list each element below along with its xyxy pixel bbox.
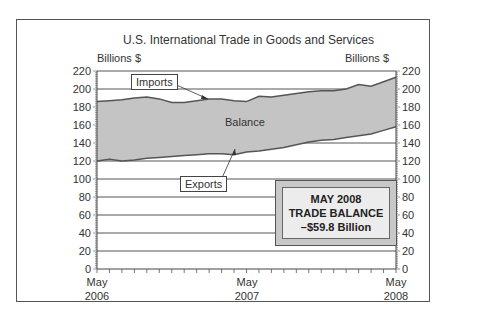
y-tick-label-right: 80 (402, 191, 414, 203)
y-tick-label-right: 200 (402, 83, 420, 95)
exports-callout: Exports (180, 176, 227, 192)
x-tick-label-may-2006: May2006 (77, 275, 117, 303)
y-tick-label-right: 100 (402, 173, 420, 185)
x-tick-label-may-2007: May2007 (227, 275, 267, 303)
x-tick-label-may-2008: May2008 (376, 275, 416, 303)
summary-title: TRADE BALANCE (289, 206, 384, 220)
y-tick-label-left: 120 (73, 155, 91, 167)
y-tick-label-right: 120 (402, 155, 420, 167)
y-tick-label-right: 140 (402, 137, 420, 149)
imports-callout: Imports (131, 74, 178, 90)
trade-balance-summary-box: MAY 2008 TRADE BALANCE –$59.8 Billion (275, 180, 397, 246)
y-tick-label-left: 140 (73, 137, 91, 149)
y-tick-label-left: 40 (79, 227, 91, 239)
y-tick-label-left: 60 (79, 209, 91, 221)
y-tick-label-left: 100 (73, 173, 91, 185)
y-tick-label-left: 0 (85, 263, 91, 275)
y-tick-label-right: 0 (402, 263, 408, 275)
y-tick-label-left: 220 (73, 65, 91, 77)
balance-label: Balance (225, 116, 265, 128)
y-tick-label-right: 60 (402, 209, 414, 221)
summary-date: MAY 2008 (311, 192, 362, 206)
y-tick-label-right: 40 (402, 227, 414, 239)
y-tick-label-right: 180 (402, 101, 420, 113)
y-tick-label-left: 200 (73, 83, 91, 95)
y-tick-label-right: 20 (402, 245, 414, 257)
summary-value: –$59.8 Billion (301, 220, 371, 234)
y-tick-label-left: 80 (79, 191, 91, 203)
y-tick-label-left: 180 (73, 101, 91, 113)
y-tick-label-left: 160 (73, 119, 91, 131)
y-tick-label-right: 220 (402, 65, 420, 77)
y-tick-label-left: 20 (79, 245, 91, 257)
y-tick-label-right: 160 (402, 119, 420, 131)
